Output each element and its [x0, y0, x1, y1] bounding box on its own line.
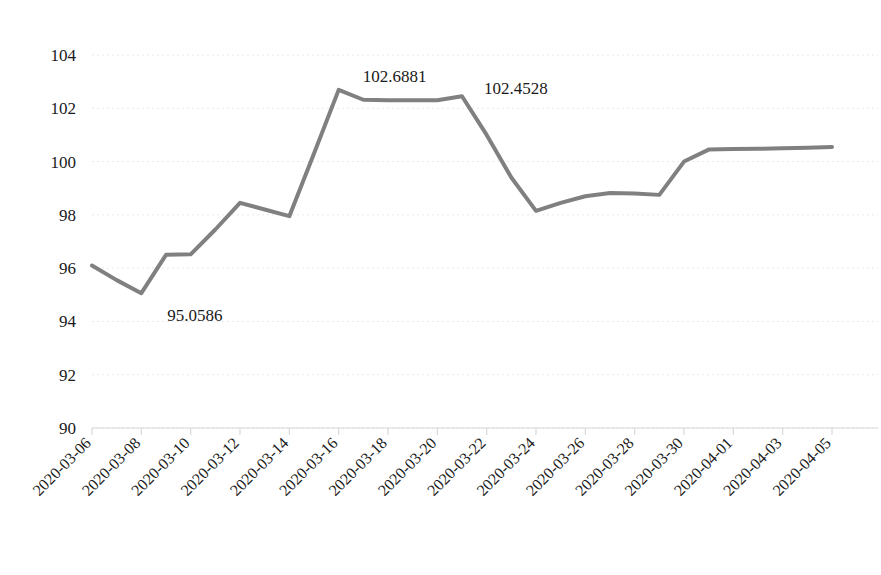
- y-tick-label: 92: [59, 366, 76, 385]
- data-point-annotations: 95.0586102.6881102.4528: [167, 67, 547, 325]
- y-axis-tick-labels: 9092949698100102104: [51, 46, 77, 438]
- y-tick-label: 102: [51, 99, 77, 118]
- data-label: 95.0586: [167, 306, 222, 325]
- x-axis-ticks: [92, 428, 832, 435]
- y-tick-label: 98: [59, 206, 76, 225]
- gridlines: [92, 55, 878, 428]
- y-tick-label: 104: [51, 46, 77, 65]
- y-tick-label: 96: [59, 259, 76, 278]
- data-series-line: [92, 90, 832, 293]
- series-line: [92, 90, 832, 293]
- x-axis-tick-labels: 2020-03-062020-03-082020-03-102020-03-12…: [29, 434, 834, 499]
- line-chart-container: 9092949698100102104 2020-03-062020-03-08…: [0, 0, 881, 575]
- y-tick-label: 94: [59, 312, 77, 331]
- data-label: 102.6881: [363, 67, 427, 86]
- data-label: 102.4528: [484, 79, 548, 98]
- y-tick-label: 90: [59, 419, 76, 438]
- y-tick-label: 100: [51, 153, 77, 172]
- line-chart: 9092949698100102104 2020-03-062020-03-08…: [0, 0, 881, 575]
